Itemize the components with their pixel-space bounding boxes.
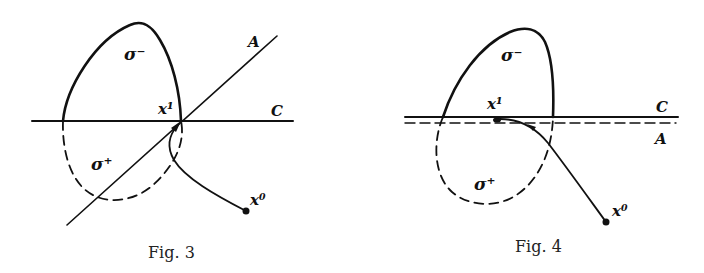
label-x1: x¹ xyxy=(486,95,503,113)
figure-3: σ⁻ σ⁺ A C x¹ x⁰ Fig. 3 xyxy=(32,23,293,262)
label-line-c: C xyxy=(271,102,283,120)
label-line-c: C xyxy=(656,98,668,116)
label-sigma-plus: σ⁺ xyxy=(91,154,113,174)
figures-canvas: σ⁻ σ⁺ A C x¹ x⁰ Fig. 3 σ⁻ σ⁺ C A x¹ x⁰ F… xyxy=(0,0,704,273)
figure-4: σ⁻ σ⁺ C A x¹ x⁰ Fig. 4 xyxy=(405,29,678,256)
trajectory xyxy=(500,119,606,222)
label-sigma-minus: σ⁻ xyxy=(501,45,523,65)
sigma-plus-boundary xyxy=(63,121,182,200)
label-x0: x⁰ xyxy=(249,191,266,209)
point-x0 xyxy=(243,208,250,215)
caption-fig-3: Fig. 3 xyxy=(148,243,195,262)
label-sigma-plus: σ⁺ xyxy=(474,174,496,194)
label-x0: x⁰ xyxy=(611,202,628,220)
label-x1: x¹ xyxy=(157,100,174,118)
caption-fig-4: Fig. 4 xyxy=(515,237,562,256)
label-line-a: A xyxy=(246,33,260,51)
point-x1 xyxy=(493,118,501,123)
point-x0 xyxy=(603,219,610,226)
label-sigma-minus: σ⁻ xyxy=(124,44,146,64)
label-line-a: A xyxy=(653,130,667,148)
